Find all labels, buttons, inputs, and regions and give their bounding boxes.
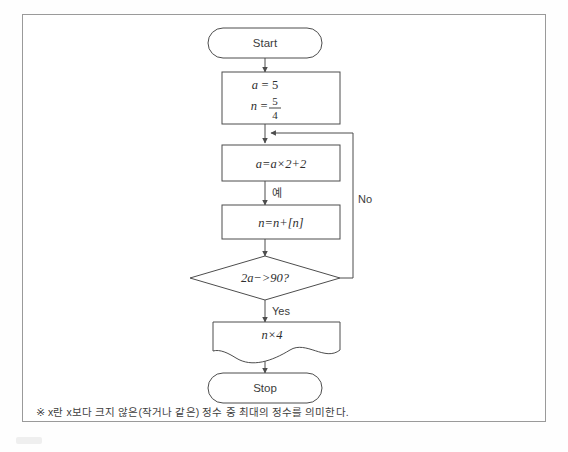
- update-n-text: n=n+[n]: [258, 216, 303, 230]
- init-line1-equals: =: [261, 78, 268, 92]
- node-update-a: a=a×2+2: [222, 145, 340, 181]
- init-fraction-numerator: 5: [272, 95, 278, 107]
- init-fraction-denominator: 4: [272, 109, 278, 121]
- node-update-n: n=n+[n]: [222, 205, 340, 239]
- init-line2-lhs: n: [251, 99, 257, 113]
- edge-label-yes: Yes: [272, 305, 290, 317]
- node-output: n×4: [213, 322, 340, 363]
- init-line2-equals: =: [260, 99, 267, 113]
- footnote-text: ※ x란 x보다 크지 않은(작거나 같은) 정수 중 최대의 정수를 의미한다…: [36, 404, 349, 419]
- node-stop: Stop: [208, 373, 322, 403]
- node-start: Start: [208, 28, 322, 58]
- stop-label: Stop: [253, 382, 277, 394]
- init-shape: [222, 72, 340, 124]
- update-a-text: a=a×2+2: [256, 157, 306, 171]
- flowchart-canvas: Start a = 5 n = 5 4 a=a×2+2 예 n=n+[n]: [0, 0, 568, 452]
- edge-label-yes-korean: 예: [272, 187, 282, 199]
- init-line1-lhs: a: [252, 78, 258, 92]
- screenshot-page: Start a = 5 n = 5 4 a=a×2+2 예 n=n+[n]: [0, 0, 568, 452]
- init-line1-rhs: 5: [272, 78, 278, 92]
- start-label: Start: [253, 37, 278, 49]
- output-text: n×4: [262, 328, 283, 342]
- node-init: a = 5 n = 5 4: [222, 72, 340, 124]
- edge-label-no: No: [358, 193, 372, 205]
- node-decision: 2a−>90?: [190, 256, 340, 300]
- decision-text: 2a−>90?: [241, 271, 290, 285]
